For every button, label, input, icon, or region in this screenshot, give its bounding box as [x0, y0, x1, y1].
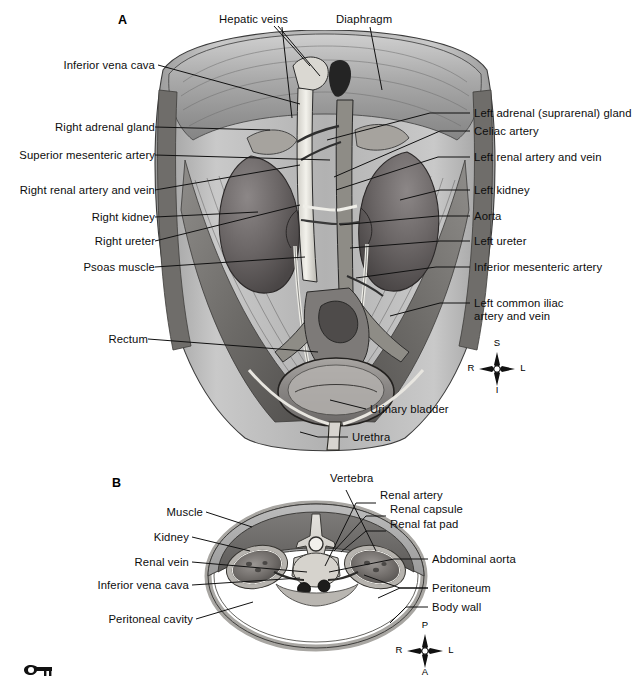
label-right-adrenal-gland: Right adrenal gland [0, 121, 155, 134]
panel-a-compass-rose: S I R L [466, 338, 528, 396]
compass-a-inferior: I [491, 384, 503, 395]
compass-b-right: R [393, 644, 405, 655]
compass-b-anterior: A [419, 666, 431, 677]
label-left-common-iliac-line2: artery and vein [474, 310, 550, 323]
vertebral-body [293, 553, 339, 587]
label-kidney: Kidney [55, 531, 189, 544]
label-left-kidney: Left kidney [474, 184, 530, 197]
label-rectum: Rectum [0, 333, 148, 346]
label-urethra: Urethra [352, 431, 390, 444]
label-psoas-muscle: Psoas muscle [0, 261, 155, 274]
label-muscle: Muscle [55, 506, 203, 519]
abdominal-aorta-section [318, 580, 330, 592]
label-inferior-vena-cava-a: Inferior vena cava [0, 59, 155, 72]
label-superior-mesenteric-artery: Superior mesenteric artery [0, 149, 155, 162]
label-celiac-artery: Celiac artery [474, 125, 539, 138]
panel-b-compass-rose: P A R L [394, 620, 456, 678]
label-hepatic-veins: Hepatic veins [219, 13, 288, 26]
label-right-renal-artery-and-vein: Right renal artery and vein [0, 184, 155, 197]
key-icon [22, 662, 56, 678]
hepatic-veins-stump [293, 57, 328, 90]
panel-letter-b: B [112, 476, 121, 490]
label-peritoneum: Peritoneum [432, 582, 491, 595]
anatomy-figure: A [0, 0, 639, 690]
label-left-common-iliac-line1: Left common iliac [474, 297, 564, 310]
urethra-shape [327, 422, 341, 450]
label-renal-fat-pad: Renal fat pad [390, 518, 459, 531]
label-body-wall: Body wall [432, 601, 481, 614]
panel-a-illustration [125, 30, 525, 455]
label-urinary-bladder: Urinary bladder [370, 403, 449, 416]
aorta-vessel [336, 100, 353, 292]
compass-a-superior: S [491, 337, 503, 348]
label-left-renal-artery-and-vein: Left renal artery and vein [474, 151, 602, 164]
label-aorta: Aorta [474, 210, 502, 223]
label-renal-artery: Renal artery [380, 489, 443, 502]
compass-a-left: L [517, 362, 529, 373]
compass-a-right: R [465, 362, 477, 373]
label-renal-capsule: Renal capsule [390, 503, 463, 516]
label-vertebra: Vertebra [330, 472, 374, 485]
label-diaphragm: Diaphragm [336, 13, 392, 26]
panel-letter-a: A [118, 13, 127, 27]
label-left-adrenal-suprarenal-gland: Left adrenal (suprarenal) gland [474, 107, 632, 120]
label-peritoneal-cavity: Peritoneal cavity [30, 613, 193, 626]
compass-b-left: L [445, 644, 457, 655]
label-right-ureter: Right ureter [0, 235, 155, 248]
label-inferior-mesenteric-artery: Inferior mesenteric artery [474, 261, 602, 274]
label-left-ureter: Left ureter [474, 235, 527, 248]
label-abdominal-aorta: Abdominal aorta [432, 553, 516, 566]
compass-b-posterior: P [419, 619, 431, 630]
label-renal-vein: Renal vein [45, 556, 189, 569]
label-inferior-vena-cava-b: Inferior vena cava [22, 579, 189, 592]
spinal-canal [309, 537, 323, 551]
label-right-kidney: Right kidney [0, 211, 155, 224]
